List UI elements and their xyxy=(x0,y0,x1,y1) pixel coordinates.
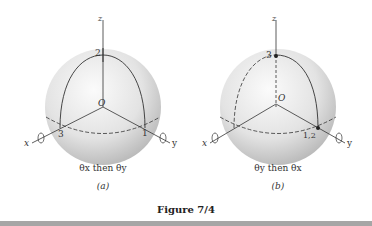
panel-a-diagram: z 2 O 3 1 x y xyxy=(24,14,178,165)
svg-text:O: O xyxy=(98,98,106,108)
figure-title: Figure 7/4 xyxy=(0,204,372,215)
svg-text:z: z xyxy=(271,14,277,23)
bottom-divider xyxy=(0,221,372,226)
svg-text:y: y xyxy=(171,138,178,148)
caption-b: θy then θx xyxy=(228,163,328,173)
svg-text:y: y xyxy=(346,138,353,148)
svg-text:1,2: 1,2 xyxy=(303,131,316,140)
svg-text:x: x xyxy=(202,138,207,148)
svg-text:2: 2 xyxy=(95,48,101,58)
figure-canvas: z 2 O 3 1 x y z 3 O 1,2 x y xyxy=(0,0,372,226)
svg-text:O: O xyxy=(278,93,286,103)
label-a: (a) xyxy=(53,181,153,191)
svg-text:z: z xyxy=(97,14,103,23)
sphere-b xyxy=(220,49,336,165)
svg-text:1: 1 xyxy=(142,128,148,138)
svg-text:3: 3 xyxy=(266,50,272,60)
label-b: (b) xyxy=(228,181,328,191)
svg-text:3: 3 xyxy=(58,129,64,139)
caption-a: θx then θy xyxy=(53,163,153,173)
panel-b-diagram: z 3 O 1,2 x y xyxy=(202,14,353,165)
svg-text:x: x xyxy=(24,138,29,148)
